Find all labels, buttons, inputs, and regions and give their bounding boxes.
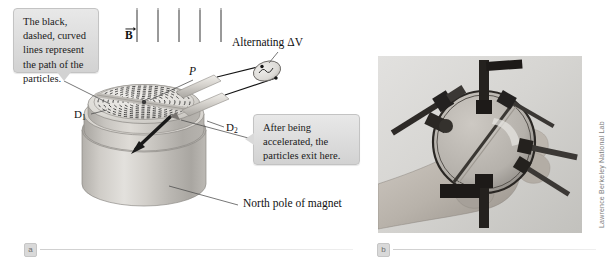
source-point-marker [142,100,146,104]
path-callout-tail [57,72,71,81]
figure-rule-b [393,249,596,250]
dee-2-letter: D [226,121,234,133]
figure-rule-a [40,249,353,250]
panel-b-photo [378,56,582,233]
figure-label-a: a [24,243,37,257]
exit-callout-text: After being accelerated, the particles e… [263,122,340,161]
dee-1-letter: D [74,108,82,120]
dee-1-subscript: 1 [82,113,86,122]
ac-source [217,57,283,95]
b-field-label: B [125,29,133,41]
vector-arrow-icon [125,26,136,31]
path-callout: The black, dashed, curved lines represen… [13,8,99,73]
figure-page: The black, dashed, curved lines represen… [0,0,609,267]
magnet-pole-label: North pole of magnet [243,197,342,209]
panel-a-diagram: The black, dashed, curved lines represen… [0,0,380,232]
alternating-voltage-label: Alternating ΔV [232,36,303,48]
dee-stems [176,75,229,116]
dee-2-subscript: 2 [234,126,238,135]
cyclotron-photograph [378,56,582,233]
photo-credit: Lawrence Berkeley National Lab [598,121,605,228]
figure-label-b: b [377,243,390,257]
dee-2-label: D2 [226,121,238,135]
exit-callout: After being accelerated, the particles e… [253,114,360,165]
exit-callout-tail [245,133,254,145]
magnetic-field-lines [137,8,221,42]
ac-source-symbol [251,57,284,84]
source-point-label: P [189,65,196,77]
dee-1-label: D1 [74,108,86,122]
